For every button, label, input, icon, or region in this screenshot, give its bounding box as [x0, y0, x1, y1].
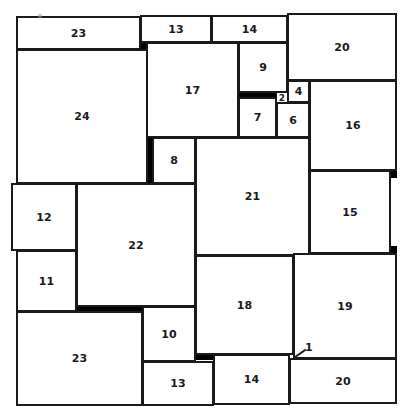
square-20: 20: [289, 358, 397, 404]
square-label: 2: [279, 93, 285, 103]
square-label: 23: [72, 352, 87, 365]
square-23: 23: [16, 16, 141, 50]
square-label: 21: [245, 190, 260, 203]
square-label: 13: [170, 377, 185, 390]
square-label: 17: [185, 84, 200, 97]
square-9: 9: [238, 42, 288, 93]
square-label: 15: [342, 206, 357, 219]
square-label: 16: [345, 119, 360, 132]
square-label: 18: [237, 299, 252, 312]
square-label: 20: [334, 41, 349, 54]
square-label: 8: [170, 154, 178, 167]
square-22: 22: [76, 183, 196, 307]
square-8: 8: [152, 137, 196, 184]
square-12: 12: [11, 183, 77, 251]
square-13: 13: [142, 361, 214, 406]
square-label: 19: [337, 300, 352, 313]
square-15: 15: [309, 170, 391, 254]
square-7: 7: [238, 97, 277, 138]
square-21: 21: [195, 137, 310, 256]
marker-dot: [38, 14, 42, 18]
square-label: 11: [39, 275, 54, 288]
square-label: 7: [254, 111, 262, 124]
square-16: 16: [309, 80, 397, 171]
square-13: 13: [140, 15, 212, 43]
square-10: 10: [142, 306, 196, 362]
square-label: 10: [161, 328, 176, 341]
square-label: 23: [71, 27, 86, 40]
square-1: [289, 354, 294, 359]
square-11: 11: [16, 250, 77, 312]
square-20: 20: [287, 13, 397, 81]
square-18: 18: [195, 255, 294, 355]
square-24: 24: [16, 49, 148, 184]
square-6: 6: [276, 102, 310, 138]
square-23: 23: [16, 311, 143, 406]
square-label: 9: [259, 61, 267, 74]
square-label: 6: [289, 114, 297, 127]
gap-filler: [390, 170, 397, 178]
square-label: 22: [128, 239, 143, 252]
square-4: 4: [287, 80, 310, 103]
square-label: 12: [36, 211, 51, 224]
square-label: 4: [295, 85, 303, 98]
square-label: 14: [242, 23, 257, 36]
square-1-label: 1: [305, 341, 313, 354]
square-label: 14: [244, 373, 259, 386]
square-label: 20: [335, 375, 350, 388]
square-14: 14: [213, 354, 290, 405]
square-14: 14: [211, 15, 288, 43]
square-label: 24: [74, 110, 89, 123]
square-17: 17: [146, 42, 239, 138]
dissection-diagram: 2313142024179247616821151222111819231013…: [0, 0, 413, 419]
square-label: 13: [168, 23, 183, 36]
